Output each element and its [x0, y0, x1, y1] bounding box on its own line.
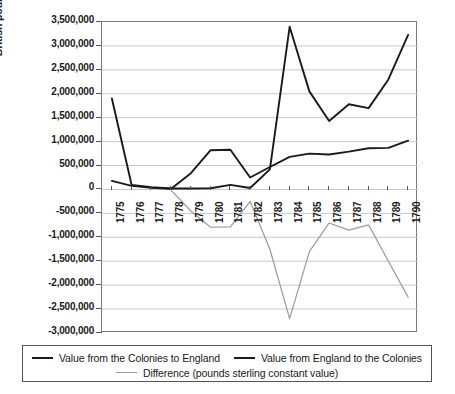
x-axis-tick-label: 1778	[174, 202, 185, 223]
x-axis-tick-labels: 1775177617771778177917801781178217831784…	[101, 189, 417, 249]
series-line-0	[112, 27, 408, 189]
y-axis-tick-label: -2,000,000	[22, 277, 94, 288]
legend-label: Value from the Colonies to England	[59, 352, 220, 364]
x-axis-tick-label: 1781	[233, 202, 244, 223]
legend-line-icon	[234, 357, 255, 359]
y-axis-tick-label: 3,000,000	[22, 38, 94, 49]
y-axis-tick-label: -1,000,000	[22, 229, 94, 240]
x-axis-tick-label: 1788	[372, 202, 383, 223]
chart-legend: Value from the Colonies to England Value…	[22, 345, 432, 382]
legend-row-bottom: Difference (pounds sterling constant val…	[23, 365, 431, 380]
y-axis-tick-label: 1,000,000	[22, 134, 94, 145]
x-axis-tick-label: 1786	[332, 202, 343, 223]
legend-row-top: Value from the Colonies to England Value…	[23, 350, 431, 365]
plot-svg	[102, 22, 418, 333]
x-axis-tick-label: 1787	[352, 202, 363, 223]
legend-entry-england-to-colonies: Value from England to the Colonies	[234, 352, 422, 364]
x-axis-tick-label: 1782	[253, 202, 264, 223]
plot-area	[101, 21, 417, 332]
y-axis-tick-label: -2,500,000	[22, 301, 94, 312]
y-axis-tick-labels: 3,500,0003,000,0002,500,0002,000,0001,50…	[20, 0, 94, 394]
x-axis-tick-label: 1783	[273, 202, 284, 223]
x-axis-tick-label: 1776	[135, 202, 146, 223]
x-axis-tick-label: 1789	[391, 202, 402, 223]
y-axis-tick-label: 0	[22, 181, 94, 192]
legend-label: Value from England to the Colonies	[261, 352, 422, 364]
y-axis-title: British pounds sterling	[0, 0, 4, 95]
legend-entry-colonies-to-england: Value from the Colonies to England	[32, 352, 220, 364]
x-axis-tick-label: 1777	[154, 202, 165, 223]
x-axis-tick-label: 1779	[194, 202, 205, 223]
legend-line-icon	[32, 357, 53, 359]
legend-label: Difference (pounds sterling constant val…	[143, 367, 338, 379]
x-axis-tick-label: 1780	[214, 202, 225, 223]
y-axis-tick-label: 1,500,000	[22, 110, 94, 121]
series-line-1	[112, 141, 408, 189]
y-axis-tick-label: 2,000,000	[22, 86, 94, 97]
x-axis-tick-label: 1784	[293, 202, 304, 223]
chart-figure: British pounds sterling 3,500,0003,000,0…	[0, 0, 455, 394]
y-axis-tick-label: -500,000	[22, 205, 94, 216]
x-axis-tick-label: 1785	[312, 202, 323, 223]
y-axis-tick-label: -3,000,000	[22, 325, 94, 336]
y-axis-tick-label: 3,500,000	[22, 14, 94, 25]
x-axis-tick-label: 1790	[411, 202, 422, 223]
x-axis-tick-label: 1775	[115, 202, 126, 223]
y-axis-tick-label: 2,500,000	[22, 62, 94, 73]
y-axis-tick-label: -1,500,000	[22, 253, 94, 264]
y-axis-tick-label: 500,000	[22, 158, 94, 169]
legend-entry-difference: Difference (pounds sterling constant val…	[116, 367, 338, 379]
legend-line-icon	[116, 372, 137, 373]
